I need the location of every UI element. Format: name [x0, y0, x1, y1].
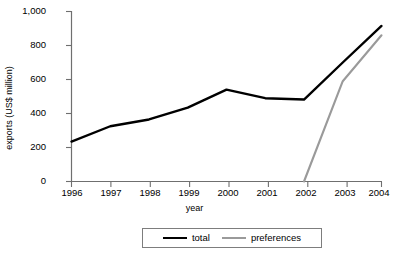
legend-swatch-preferences-icon — [222, 237, 246, 239]
axes — [72, 11, 383, 182]
series-line-total — [72, 26, 382, 142]
y-axis-ticks — [66, 12, 72, 182]
x-axis-ticks — [72, 182, 382, 188]
legend-swatch-total-icon — [163, 237, 187, 239]
series-line-preferences — [304, 35, 382, 181]
legend-item-total[interactable]: total — [163, 233, 210, 243]
legend-label-preferences: preferences — [251, 233, 301, 243]
legend-label-total: total — [192, 233, 210, 243]
legend-item-preferences[interactable]: preferences — [222, 233, 301, 243]
chart-legend: total preferences — [142, 228, 322, 248]
